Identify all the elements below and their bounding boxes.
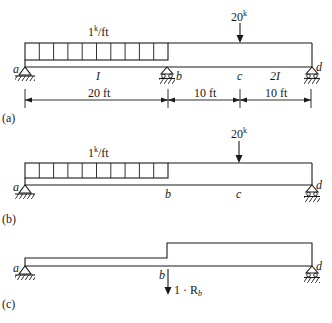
node-label-d: d <box>316 60 323 74</box>
node-label-c: c <box>237 69 243 83</box>
panel-label-b: (b) <box>2 212 16 226</box>
distributed-load-a <box>25 43 168 60</box>
node-label-b: b <box>159 268 165 282</box>
panel-label-c: (c) <box>2 297 15 311</box>
node-label-b: b <box>176 69 182 83</box>
distributed-load-b <box>25 163 168 178</box>
panel-a: 1k/ft 20k <box>2 9 323 125</box>
arrow-down-icon <box>165 287 172 295</box>
beam-diagram: 1k/ft 20k <box>0 0 332 323</box>
distributed-load-label-a: 1k/ft <box>88 24 109 39</box>
redundant-load-b: 1 · Rb <box>165 269 203 298</box>
point-load-b: 20k <box>231 126 247 163</box>
node-label-c: c <box>236 187 242 201</box>
panel-label-a: (a) <box>2 111 15 125</box>
node-label-a: a <box>13 261 19 275</box>
arrow-down-icon <box>236 155 243 163</box>
dimension-label-bc: 10 ft <box>194 86 217 100</box>
beam-c <box>25 243 312 266</box>
distributed-load-label-b: 1k/ft <box>88 145 109 160</box>
stiffness-label-right: 2I <box>270 69 281 83</box>
node-label-a: a <box>13 180 19 194</box>
stiffness-label-left: I <box>95 69 101 83</box>
redundant-load-label: 1 · Rb <box>174 283 202 298</box>
node-label-b: b <box>165 187 171 201</box>
point-load-label-a: 20k <box>231 9 247 24</box>
roller-support-b <box>159 67 175 84</box>
node-label-a: a <box>13 62 19 76</box>
node-label-d: d <box>316 178 323 192</box>
dimension-label-ab: 20 ft <box>88 86 111 100</box>
point-load-label-b: 20k <box>231 126 247 141</box>
point-load-a: 20k <box>231 9 247 43</box>
dimension-label-cd: 10 ft <box>265 86 288 100</box>
arrow-down-icon <box>237 35 244 43</box>
panel-c: 1 · Rb a b d (c) <box>2 243 323 311</box>
node-label-d: d <box>316 259 323 273</box>
panel-b: 1k/ft 20k <box>2 126 323 226</box>
